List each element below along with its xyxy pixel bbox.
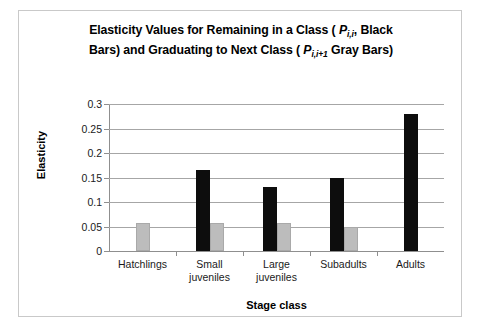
chart-title-line1-subscript: i,i <box>347 29 354 39</box>
y-axis-tick-label: 0.2 <box>56 147 102 159</box>
y-axis-tick-mark <box>104 251 109 252</box>
plot-area <box>109 104 444 251</box>
bar-black-small-juveniles <box>196 170 210 251</box>
chart-title-line2-pre: Bars) and Graduating to Next Class ( <box>89 43 303 57</box>
chart-title-line1-symbol: P <box>339 23 347 37</box>
y-axis-tick-mark <box>104 104 109 105</box>
x-axis-tick-label-part: Hatchlings <box>118 258 167 270</box>
y-axis-tick-label: 0.15 <box>56 172 102 184</box>
x-axis-tick-label-part: Subadults <box>320 258 367 270</box>
x-axis-tick-label-part: Small <box>196 258 222 270</box>
y-axis-tick-label: 0 <box>56 245 102 257</box>
bar-gray-large-juveniles <box>277 223 291 251</box>
bar-black-subadults <box>330 178 344 251</box>
chart-title-line2-post: Gray Bars) <box>328 43 393 57</box>
x-axis-tick-mark <box>310 251 311 256</box>
x-axis-tick-label-part: juveniles <box>189 271 230 283</box>
gridline <box>109 202 444 203</box>
chart-title-line2-subscript: i,i+1 <box>311 49 327 59</box>
y-axis-tick-label: 0.3 <box>56 98 102 110</box>
x-axis-tick-label-part: juveniles <box>256 271 297 283</box>
x-axis-tick-label: Adults <box>377 258 444 271</box>
x-axis-title: Stage class <box>109 299 444 311</box>
x-axis-line <box>109 251 444 252</box>
y-axis-tick-mark <box>104 153 109 154</box>
bar-black-large-juveniles <box>263 187 277 251</box>
bar-black-adults <box>404 114 418 251</box>
gridline <box>109 178 444 179</box>
gridline <box>109 153 444 154</box>
x-axis-tick-mark <box>243 251 244 256</box>
x-axis-tick-label: Hatchlings <box>109 258 176 271</box>
bar-gray-subadults <box>344 227 358 251</box>
chart-title-line1-post: , Black <box>354 23 393 37</box>
x-axis-tick-label: Largejuveniles <box>243 258 310 284</box>
x-axis-tick-label: Subadults <box>310 258 377 271</box>
x-axis-tick-label: Smalljuveniles <box>176 258 243 284</box>
y-axis-tick-label: 0.05 <box>56 221 102 233</box>
y-axis-tick-label: 0.25 <box>56 123 102 135</box>
chart-title-line1-pre: Elasticity Values for Remaining in a Cla… <box>89 23 339 37</box>
y-axis-tick-mark <box>104 227 109 228</box>
y-axis-tick-mark <box>104 178 109 179</box>
x-axis-tick-label-part: Adults <box>396 258 425 270</box>
bar-gray-hatchlings <box>136 223 150 251</box>
gridline <box>109 129 444 130</box>
y-axis-title: Elasticity <box>35 105 47 205</box>
bar-gray-small-juveniles <box>210 223 224 251</box>
y-axis-tick-mark <box>104 129 109 130</box>
y-axis-tick-mark <box>104 202 109 203</box>
y-axis-tick-label: 0.1 <box>56 196 102 208</box>
y-axis-tick-labels: 00.050.10.150.20.250.3 <box>52 11 102 330</box>
chart-figure-frame: Elasticity Values for Remaining in a Cla… <box>18 10 462 317</box>
gridline <box>109 104 444 105</box>
x-axis-tick-mark <box>377 251 378 256</box>
x-axis-tick-label-part: Large <box>263 258 290 270</box>
x-axis-tick-mark <box>176 251 177 256</box>
